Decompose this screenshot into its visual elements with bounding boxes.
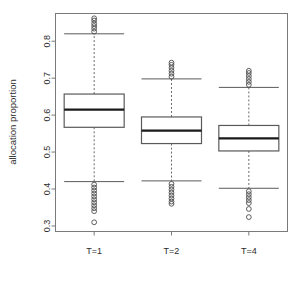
boxplot-canvas: 0.30.40.50.60.70.8 T=1T=2T=4 allocation … <box>0 0 305 282</box>
y-axis-tick-label: 0.3 <box>43 220 53 233</box>
y-axis-tick-label: 0.7 <box>43 72 53 85</box>
x-axis-category-label: T=2 <box>164 246 180 256</box>
y-axis-tick-label: 0.8 <box>43 35 53 48</box>
y-axis-tick-label: 0.4 <box>43 183 53 196</box>
y-axis-tick-label: 0.5 <box>43 146 53 159</box>
y-axis-title: allocation proportion <box>7 79 18 165</box>
boxplot-figure: 0.30.40.50.60.70.8 T=1T=2T=4 allocation … <box>0 0 305 282</box>
iqr-box <box>64 94 124 127</box>
y-axis-tick-label: 0.6 <box>43 109 53 122</box>
x-axis-category-label: T=1 <box>86 246 102 256</box>
x-axis-category-label: T=4 <box>241 246 257 256</box>
